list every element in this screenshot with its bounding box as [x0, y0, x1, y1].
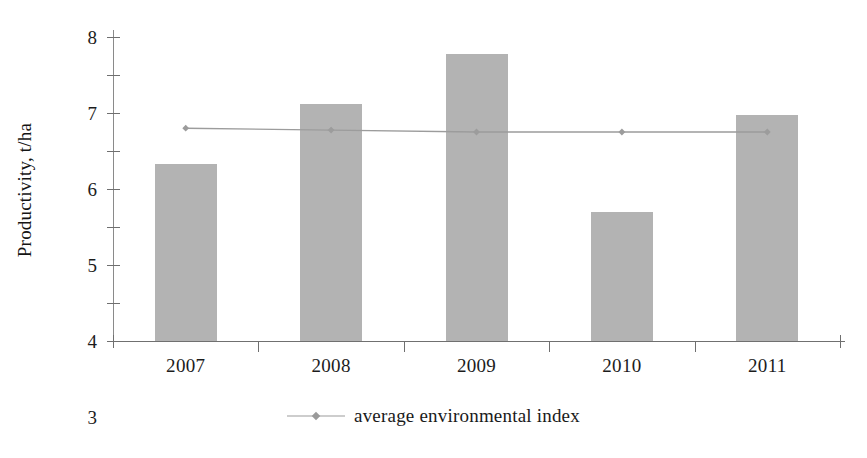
legend-item-label: average environmental index — [354, 405, 580, 427]
line-marker-icon — [287, 409, 345, 423]
line-marker-2010 — [619, 129, 626, 136]
x-axis-tick — [840, 335, 841, 348]
line-marker-2009 — [473, 129, 480, 136]
line-marker-2008 — [328, 127, 335, 134]
x-axis-tick — [258, 341, 259, 352]
y-axis-tick-label: 7 — [88, 104, 98, 123]
line-marker-2007 — [182, 125, 189, 132]
y-axis-tick-label: 4 — [88, 332, 98, 351]
line-series-average-environmental-index — [113, 37, 840, 341]
y-axis-tick-label: 5 — [88, 256, 98, 275]
x-axis-label-2010: 2010 — [602, 356, 641, 375]
x-axis-label-2009: 2009 — [457, 356, 496, 375]
x-axis-tick — [695, 341, 696, 352]
plot-area: 876543210 — [113, 37, 840, 341]
x-axis-tick — [404, 341, 405, 352]
legend-item-average-environmental-index: average environmental index — [287, 405, 580, 427]
x-axis-line — [108, 341, 845, 342]
x-axis-label-2007: 2007 — [166, 356, 205, 375]
chart-legend: average environmental index — [0, 405, 867, 427]
x-axis-tick — [113, 335, 114, 348]
y-axis-title: Productivity, t/ha — [14, 123, 36, 257]
y-axis-tick-label: 8 — [88, 28, 98, 47]
line-marker-2011 — [764, 129, 771, 136]
x-axis-label-2008: 2008 — [311, 356, 350, 375]
y-axis-tick-label: 6 — [88, 180, 98, 199]
x-axis-tick — [549, 341, 550, 352]
x-axis-label-2011: 2011 — [748, 356, 787, 375]
chart-figure: Productivity, t/ha 876543210 20072008200… — [0, 0, 867, 458]
